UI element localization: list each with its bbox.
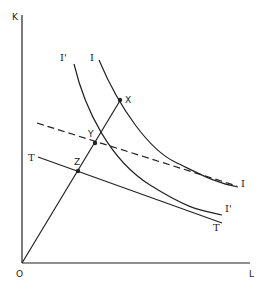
isocost-dashed <box>37 123 237 186</box>
isocost-T-start-label: T <box>28 152 35 163</box>
l-axis-label: L <box>249 269 254 279</box>
point-Y <box>93 141 97 145</box>
point-X-label: X <box>125 95 131 105</box>
isoquant-diagram: K L O I I I' I' T T X Y Z <box>0 0 264 291</box>
isoquant-I-end-label: I <box>241 178 245 189</box>
point-Z <box>76 169 80 173</box>
point-Z-label: Z <box>74 157 80 167</box>
isoquant-I-prime-top-label: I' <box>60 52 67 63</box>
origin-label: O <box>16 269 23 279</box>
point-X <box>118 98 122 102</box>
isoquant-I-prime-end-label: I' <box>225 203 232 214</box>
point-Y-label: Y <box>87 129 94 139</box>
isoquant-I-top-label: I <box>90 52 94 63</box>
isocost-T-end-label: T <box>213 222 220 233</box>
k-axis-label: K <box>12 12 19 22</box>
isoquant-I <box>99 60 238 187</box>
